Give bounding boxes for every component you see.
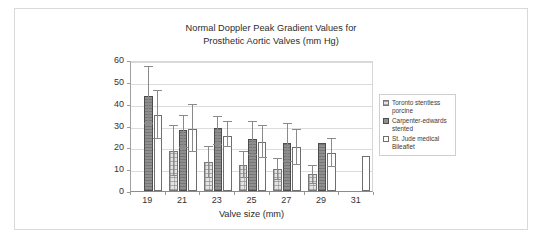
error-bar-stem — [312, 166, 313, 185]
bar-group — [135, 62, 163, 191]
error-bar-cap-lower — [248, 154, 257, 155]
x-axis-title: Valve size (mm) — [130, 209, 373, 219]
error-bar-stem — [252, 122, 253, 155]
error-bar — [154, 91, 163, 191]
bar — [362, 156, 371, 191]
error-bar-stem — [227, 122, 228, 147]
y-tick-label: 20 — [94, 142, 124, 152]
error-bar — [292, 130, 301, 191]
legend-label: Carpenter-edwardsstented — [392, 117, 447, 132]
error-bar — [273, 159, 282, 191]
bar-group — [169, 62, 197, 191]
error-bar-cap-lower — [188, 151, 197, 152]
legend-swatch-icon — [383, 118, 389, 124]
error-bar-cap-lower — [153, 138, 162, 139]
error-bar-cap-upper — [179, 115, 188, 116]
error-bar-stem — [243, 152, 244, 178]
error-bar-cap-upper — [248, 121, 257, 122]
bar-group — [239, 62, 267, 191]
error-bar-cap-upper — [204, 146, 213, 147]
y-tick-label: 0 — [94, 186, 124, 196]
error-bar-cap-lower — [292, 164, 301, 165]
y-tick-label: 30 — [94, 121, 124, 131]
legend-entry[interactable]: Toronto stentlessporcine — [383, 99, 452, 114]
error-bar — [258, 126, 267, 192]
error-bar-stem — [296, 130, 297, 165]
error-bar-cap-upper — [239, 151, 248, 152]
error-bar-cap-lower — [204, 177, 213, 178]
legend-swatch-icon — [383, 100, 389, 106]
error-bar-cap-upper — [153, 90, 162, 91]
error-bar-cap-upper — [144, 66, 153, 67]
error-bar-cap-upper — [258, 125, 267, 126]
legend-label: St. Jude medicalBileaflet — [392, 135, 439, 150]
error-bar-stem — [217, 117, 218, 145]
bar — [318, 143, 327, 191]
error-bar-cap-upper — [308, 165, 317, 166]
error-bar — [144, 67, 153, 191]
chart-title-line-2: Prosthetic Aortic Valves (mm Hg) — [15, 35, 527, 48]
error-bar-cap-lower — [258, 157, 267, 158]
error-bar — [204, 147, 213, 191]
bar-group — [204, 62, 232, 191]
error-bar — [239, 152, 248, 191]
legend-label: Toronto stentlessporcine — [392, 99, 440, 114]
error-bar-stem — [148, 67, 149, 125]
error-bar-stem — [331, 139, 332, 167]
bar-group — [273, 62, 301, 191]
y-tick-label: 10 — [94, 164, 124, 174]
bar-group — [343, 62, 371, 191]
error-bar-stem — [157, 91, 158, 139]
error-bar-cap-upper — [223, 121, 232, 122]
y-tick-label: 40 — [94, 99, 124, 109]
error-bar-cap-lower — [283, 161, 292, 162]
error-bar — [223, 122, 232, 191]
legend-swatch-icon — [383, 136, 389, 142]
x-tick-mark — [373, 192, 374, 195]
chart-figure-frame: Normal Doppler Peak Gradient Values for … — [14, 8, 528, 230]
chart-title-line-1: Normal Doppler Peak Gradient Values for — [15, 22, 527, 35]
error-bar — [179, 116, 188, 191]
error-bar-cap-lower — [273, 179, 282, 180]
error-bar-cap-lower — [179, 147, 188, 148]
error-bar-cap-upper — [169, 125, 178, 126]
error-bar-cap-upper — [292, 129, 301, 130]
error-bar-cap-lower — [223, 146, 232, 147]
error-bar-cap-upper — [188, 104, 197, 105]
error-bar — [169, 126, 178, 192]
error-bar-cap-upper — [283, 123, 292, 124]
plot-area — [130, 61, 373, 192]
error-bar — [214, 117, 223, 191]
bar-group — [308, 62, 336, 191]
error-bar — [308, 166, 317, 191]
error-bar-cap-lower — [308, 183, 317, 184]
chart-legend: Toronto stentlessporcineCarpenter-edward… — [379, 94, 456, 156]
x-tick-mark — [130, 192, 131, 195]
error-bar — [248, 122, 257, 191]
error-bar-stem — [208, 147, 209, 178]
y-tick-label: 50 — [94, 77, 124, 87]
error-bar-stem — [192, 105, 193, 152]
error-bar-cap-lower — [213, 144, 222, 145]
error-bar-cap-lower — [239, 177, 248, 178]
error-bar-cap-upper — [327, 138, 336, 139]
chart-title: Normal Doppler Peak Gradient Values for … — [15, 22, 527, 47]
error-bar — [327, 139, 336, 191]
error-bar-stem — [173, 126, 174, 176]
error-bar-cap-lower — [169, 175, 178, 176]
error-bar — [283, 124, 292, 191]
x-tick-label: 31 — [336, 195, 376, 205]
error-bar-cap-lower — [144, 123, 153, 124]
error-bar-cap-upper — [273, 158, 282, 159]
error-bar — [188, 105, 197, 191]
legend-entry[interactable]: St. Jude medicalBileaflet — [383, 135, 452, 150]
y-tick-label: 60 — [94, 55, 124, 65]
error-bar-cap-upper — [213, 116, 222, 117]
error-bar-stem — [287, 124, 288, 161]
error-bar-stem — [262, 126, 263, 159]
error-bar-stem — [183, 116, 184, 149]
error-bar-stem — [277, 159, 278, 180]
error-bar-cap-lower — [327, 166, 336, 167]
legend-entry[interactable]: Carpenter-edwardsstented — [383, 117, 452, 132]
